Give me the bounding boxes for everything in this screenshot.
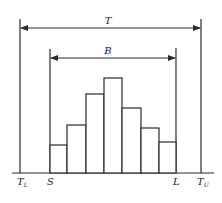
histogram-bar (122, 108, 141, 173)
histogram-bar (104, 78, 122, 173)
tolerance-histogram-diagram: T B TL S L TU (0, 0, 222, 203)
histogram-bars (50, 78, 176, 173)
histogram-bar (50, 145, 67, 173)
lower-tolerance-label: TL (17, 176, 28, 188)
largest-value-label: L (172, 176, 180, 187)
histogram-bar (67, 125, 86, 173)
tolerance-range-label: T (105, 15, 113, 26)
spread-range-label: B (103, 45, 111, 56)
upper-tolerance-label: TU (197, 176, 210, 188)
histogram-bar (141, 128, 159, 173)
smallest-value-label: S (47, 176, 54, 187)
histogram-bar (159, 142, 176, 173)
histogram-bar (86, 94, 104, 173)
